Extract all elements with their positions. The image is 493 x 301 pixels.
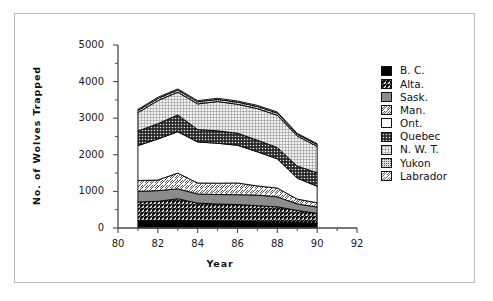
y-tick-label: 1000 — [64, 185, 104, 196]
legend-label: Ont. — [400, 118, 422, 129]
y-tick-label: 2000 — [64, 149, 104, 160]
y-tick-label: 0 — [64, 222, 104, 233]
legend-swatch-icon — [381, 79, 392, 89]
legend-label: Alta. — [400, 79, 424, 90]
x-tick-label: 88 — [262, 238, 292, 249]
legend-item[interactable]: Yukon — [381, 156, 485, 169]
x-tick-label: 82 — [143, 238, 173, 249]
x-tick-label: 80 — [103, 238, 133, 249]
legend-swatch-icon — [381, 132, 392, 142]
x-axis-title: Year — [150, 258, 290, 269]
area-bands — [138, 89, 317, 228]
legend-swatch-icon — [381, 158, 392, 168]
legend-swatch-icon — [381, 105, 392, 115]
legend-swatch-icon — [381, 171, 392, 181]
y-tick-label: 4000 — [64, 76, 104, 87]
x-tick-label: 92 — [342, 238, 372, 249]
x-tick-label: 90 — [302, 238, 332, 249]
legend-item[interactable]: Labrador — [381, 170, 485, 183]
legend-swatch-icon — [381, 66, 392, 76]
y-tick-label: 5000 — [64, 39, 104, 50]
legend-label: B. C. — [400, 65, 425, 76]
legend-label: Sask. — [400, 92, 428, 103]
legend-item[interactable]: Man. — [381, 104, 485, 117]
legend-label: Quebec — [400, 131, 440, 142]
y-tick-label: 3000 — [64, 112, 104, 123]
legend-swatch-icon — [381, 145, 392, 155]
y-axis-title: No. of Wolves Trapped — [31, 56, 42, 216]
legend-item[interactable]: Quebec — [381, 130, 485, 143]
legend-item[interactable]: N. W. T. — [381, 143, 485, 156]
legend-label: Yukon — [400, 158, 431, 169]
x-tick-label: 84 — [183, 238, 213, 249]
legend-swatch-icon — [381, 118, 392, 128]
legend-item[interactable]: Ont. — [381, 117, 485, 130]
legend: B. C.Alta.Sask.Man.Ont.QuebecN. W. T.Yuk… — [381, 64, 485, 183]
x-tick-label: 86 — [223, 238, 253, 249]
chart-figure: No. of Wolves Trapped Year 0100020003000… — [0, 0, 493, 301]
legend-label: Man. — [400, 105, 426, 116]
legend-label: Labrador — [400, 171, 447, 182]
legend-swatch-icon — [381, 92, 392, 102]
legend-item[interactable]: Sask. — [381, 90, 485, 103]
legend-item[interactable]: Alta. — [381, 77, 485, 90]
legend-label: N. W. T. — [400, 144, 439, 155]
legend-item[interactable]: B. C. — [381, 64, 485, 77]
